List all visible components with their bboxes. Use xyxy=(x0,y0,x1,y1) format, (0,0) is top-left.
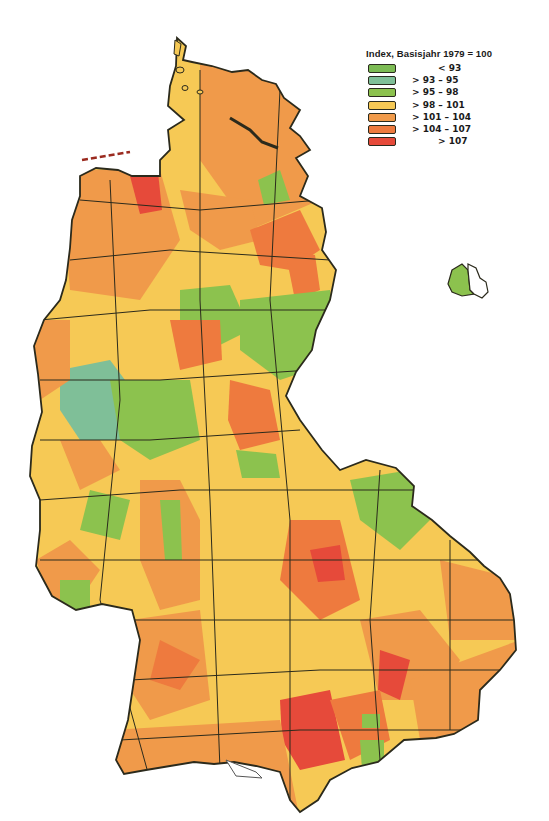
legend-item: > 101 – 104 xyxy=(366,112,546,124)
legend-label: > 95 – 98 xyxy=(412,87,512,97)
legend-item: < 93 xyxy=(366,63,546,75)
legend-swatch xyxy=(368,125,396,134)
legend-swatch xyxy=(368,64,396,73)
legend-label: > 101 – 104 xyxy=(412,112,512,122)
legend-item: > 107 xyxy=(366,136,546,148)
legend-swatch xyxy=(368,76,396,85)
legend-title: Index, Basisjahr 1979 = 100 xyxy=(366,48,546,59)
choropleth-map: Index, Basisjahr 1979 = 100 < 93 > 93 – … xyxy=(0,0,549,821)
frisian-islands xyxy=(82,152,130,160)
legend-swatch xyxy=(368,101,396,110)
legend-item: > 93 – 95 xyxy=(366,75,546,87)
legend-swatch xyxy=(368,88,396,97)
legend-item: > 104 – 107 xyxy=(366,124,546,136)
legend-label: > 98 – 101 xyxy=(412,100,512,110)
legend-swatch xyxy=(368,137,396,146)
legend: Index, Basisjahr 1979 = 100 < 93 > 93 – … xyxy=(366,48,546,148)
legend-item: > 98 – 101 xyxy=(366,100,546,112)
legend-swatch xyxy=(368,113,396,122)
legend-label: < 93 xyxy=(438,63,538,73)
legend-label: > 104 – 107 xyxy=(412,124,512,134)
legend-item: > 95 – 98 xyxy=(366,87,546,99)
legend-label: > 107 xyxy=(438,136,538,146)
berlin-enclave xyxy=(448,264,488,298)
legend-label: > 93 – 95 xyxy=(412,75,512,85)
